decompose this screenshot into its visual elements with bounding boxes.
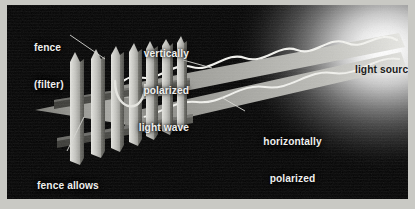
- label-vertical-line2: polarized: [103, 85, 189, 97]
- label-light-source: light source: [355, 64, 408, 76]
- label-fence-filter: fence (filter): [34, 17, 64, 116]
- fence-picket: [70, 52, 84, 165]
- label-fence-line1: fence: [34, 42, 64, 54]
- label-horizontally-polarized-light-wave: horizontally polarized light wave: [245, 111, 340, 199]
- label-fence-line2: (filter): [34, 79, 64, 91]
- figure-polarization-diagram: fence (filter) vertically polarized ligh…: [0, 0, 415, 209]
- label-vertical-line1: vertically: [103, 48, 189, 60]
- label-vertically-polarized-light-wave: vertically polarized light wave: [103, 23, 189, 159]
- label-horizontal-line1: horizontally: [245, 136, 340, 148]
- label-allows-line1: fence allows: [13, 180, 123, 192]
- label-horizontal-line2: polarized: [245, 173, 340, 185]
- label-fence-allows-only-vertical-waves-through: fence allows only vertical waves through: [13, 155, 123, 199]
- label-vertical-line3: light wave: [103, 122, 189, 134]
- diagram-scene: fence (filter) vertically polarized ligh…: [7, 5, 408, 199]
